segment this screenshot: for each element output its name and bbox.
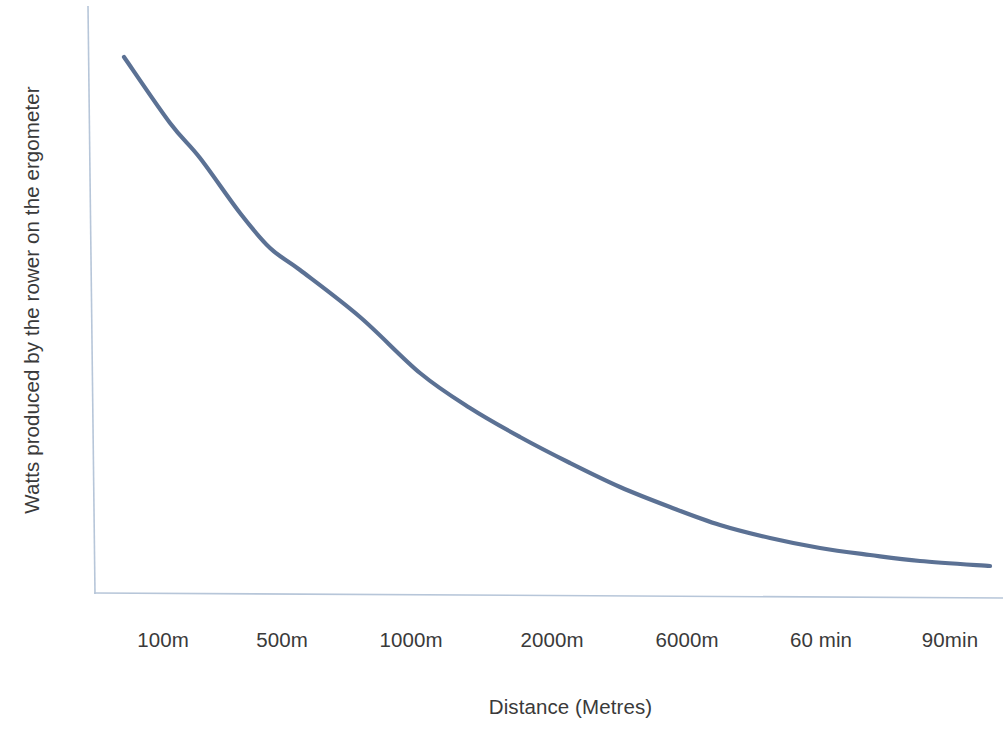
- x-axis-tick-labels: 100m500m1000m2000m6000m60 min90min: [0, 626, 1005, 658]
- series-line-watts: [124, 57, 990, 566]
- x-tick-label-0: 100m: [137, 626, 189, 654]
- x-tick-label-1: 500m: [256, 626, 308, 654]
- x-tick-label-4: 6000m: [655, 626, 718, 654]
- chart-container: Watts produced by the rower on the ergom…: [0, 0, 1005, 741]
- x-axis-title: Distance (Metres): [0, 695, 1005, 719]
- x-axis-title-text: Distance (Metres): [489, 695, 652, 718]
- y-axis-line: [88, 6, 95, 594]
- x-tick-label-3: 2000m: [520, 626, 583, 654]
- x-tick-label-2: 1000m: [379, 626, 442, 654]
- x-tick-label-6: 90min: [922, 626, 978, 654]
- x-axis-line: [94, 593, 1003, 598]
- x-tick-label-5: 60 min: [790, 626, 852, 654]
